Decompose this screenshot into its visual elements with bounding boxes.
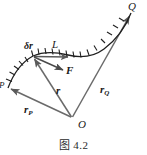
label-force-f: F [66, 65, 73, 76]
label-point-o: O [78, 119, 86, 130]
label-vector-r: r [56, 85, 60, 96]
label-vector-rp-subscript: P [28, 109, 32, 117]
label-vector-rq-subscript: Q [104, 89, 109, 97]
label-vector-rq: rQ [100, 84, 109, 97]
label-point-p: P [0, 81, 5, 90]
vector-diagram [0, 0, 147, 136]
vector-delta-r-line [34, 57, 68, 58]
figure-caption: 图 4.2 [0, 136, 147, 152]
figure-container: Q P O L δr F r rP rQ 图 4.2 [0, 0, 147, 155]
label-point-q: Q [128, 1, 136, 12]
label-curve-l: L [52, 39, 58, 50]
vector-f-line [34, 57, 63, 70]
label-delta-r: δr [24, 41, 33, 51]
label-vector-rp: rP [24, 104, 33, 117]
